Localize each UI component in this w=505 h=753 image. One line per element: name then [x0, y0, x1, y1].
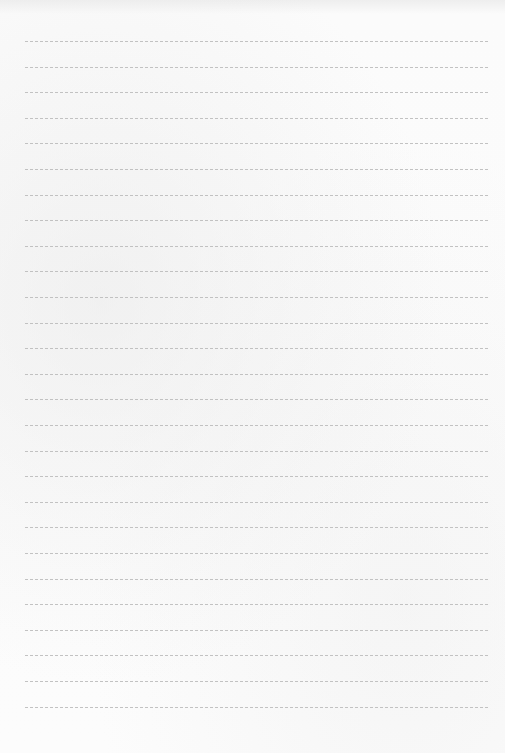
ruled-line: [25, 246, 488, 247]
ruled-line: [25, 297, 488, 298]
ruled-line: [25, 220, 488, 221]
ruled-line: [25, 553, 488, 554]
ruled-line: [25, 118, 488, 119]
ruled-line: [25, 476, 488, 477]
ruled-line: [25, 707, 488, 708]
ruled-line: [25, 92, 488, 93]
ruled-line: [25, 630, 488, 631]
ruled-line: [25, 41, 488, 42]
ruled-line: [25, 143, 488, 144]
ruled-line: [25, 655, 488, 656]
lined-paper-sheet: [0, 0, 505, 753]
ruled-line: [25, 323, 488, 324]
ruled-line: [25, 425, 488, 426]
ruled-line: [25, 67, 488, 68]
ruled-line: [25, 348, 488, 349]
ruled-line: [25, 451, 488, 452]
ruled-line: [25, 169, 488, 170]
ruled-line: [25, 604, 488, 605]
ruled-line: [25, 374, 488, 375]
ruled-line: [25, 681, 488, 682]
ruled-line: [25, 195, 488, 196]
ruled-line: [25, 579, 488, 580]
ruled-line: [25, 527, 488, 528]
ruled-line: [25, 271, 488, 272]
ruled-line: [25, 399, 488, 400]
ruled-line: [25, 502, 488, 503]
